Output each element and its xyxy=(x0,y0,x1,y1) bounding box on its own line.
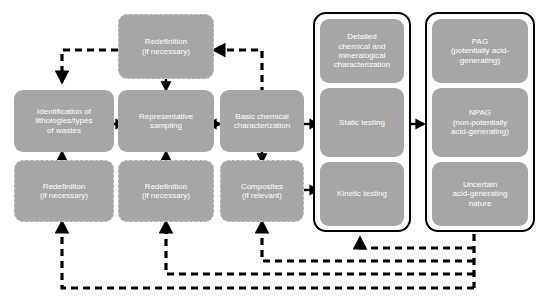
node-uncertain[interactable]: Uncertain acid-generating nature xyxy=(432,162,528,226)
edge-basic-chemical-to-redefinition-top xyxy=(214,50,262,94)
node-representative-sampling-label: Representative sampling xyxy=(139,112,193,131)
node-detailed-characterization-label: Detailed chemical and mineralogical char… xyxy=(334,32,390,70)
node-redefinition-mid-label: Redefinition (if necessary) xyxy=(142,182,190,201)
node-redefinition-top-label: Redefinition (if necessary) xyxy=(142,37,190,56)
node-kinetic-testing-label: Kinetic testing xyxy=(337,189,387,198)
node-representative-sampling[interactable]: Representative sampling xyxy=(118,90,214,152)
node-pag[interactable]: PAG (potentially acid- generating) xyxy=(432,19,528,83)
node-basic-chemical[interactable]: Basic chemical characterization xyxy=(220,90,304,152)
node-redefinition-mid[interactable]: Redefinition (if necessary) xyxy=(118,160,214,222)
edge-classification-to-redefinition-left xyxy=(62,222,474,288)
node-uncertain-label: Uncertain acid-generating nature xyxy=(452,180,507,208)
node-composites-label: Composites (if relevant) xyxy=(241,182,283,201)
node-static-testing-label: Static testing xyxy=(339,118,385,127)
node-npag[interactable]: NPAG (non-potentially acid-generating) xyxy=(432,88,528,157)
node-static-testing[interactable]: Static testing xyxy=(320,88,404,157)
node-redefinition-top[interactable]: Redefinition (if necessary) xyxy=(118,14,214,79)
node-composites[interactable]: Composites (if relevant) xyxy=(220,160,304,222)
node-npag-label: NPAG (non-potentially acid-generating) xyxy=(451,108,509,136)
flowchart-canvas: Redefinition (if necessary) Identificati… xyxy=(0,0,541,298)
edge-classification-to-testing-group xyxy=(360,238,474,248)
edge-redefinition-top-to-identification xyxy=(62,50,118,82)
node-kinetic-testing[interactable]: Kinetic testing xyxy=(320,162,404,226)
node-redefinition-left[interactable]: Redefinition (if necessary) xyxy=(14,160,114,222)
node-basic-chemical-label: Basic chemical characterization xyxy=(234,112,290,131)
node-identification[interactable]: Identification of lithologies/types of w… xyxy=(14,90,114,152)
node-identification-label: Identification of lithologies/types of w… xyxy=(36,107,93,135)
node-pag-label: PAG (potentially acid- generating) xyxy=(451,37,509,65)
node-redefinition-left-label: Redefinition (if necessary) xyxy=(40,182,88,201)
node-detailed-characterization[interactable]: Detailed chemical and mineralogical char… xyxy=(320,19,404,83)
